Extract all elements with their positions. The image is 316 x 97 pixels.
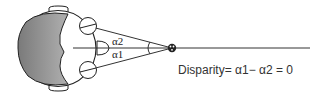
eye-lower bbox=[80, 62, 97, 79]
angle-label-alpha1: α1 bbox=[112, 48, 123, 60]
binocular-disparity-diagram: α2 α1 Disparity= α1− α2 = 0 bbox=[0, 0, 316, 97]
angle-label-alpha2: α2 bbox=[112, 35, 123, 47]
brain-shape bbox=[18, 13, 68, 85]
disparity-caption: Disparity= α1− α2 = 0 bbox=[178, 63, 293, 77]
eye-upper bbox=[80, 18, 97, 35]
fixation-point-icon bbox=[168, 44, 176, 52]
